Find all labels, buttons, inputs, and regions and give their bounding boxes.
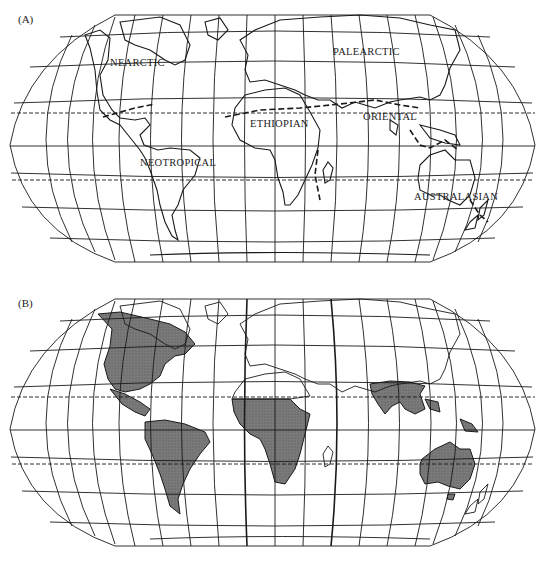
panel-label-a: (A) [18,13,33,25]
realm-label-nearctic: NEARCTIC [110,57,165,68]
realm-label-ethiopian: ETHIOPIAN [250,118,309,129]
map-panel-a: (A) NEARCTIC PALEARCTIC ETHIOPIAN ORIENT… [0,0,548,284]
world-map-a [0,0,548,284]
realm-label-neotropical: NEOTROPICAL [140,157,216,168]
map-panel-b: (B) [0,284,548,568]
realm-label-australasian: AUSTRALASIAN [414,191,498,202]
panel-label-b: (B) [18,297,33,309]
realm-label-palearctic: PALEARCTIC [333,46,400,57]
realm-label-oriental: ORIENTAL [363,111,417,122]
world-map-b [0,284,548,568]
